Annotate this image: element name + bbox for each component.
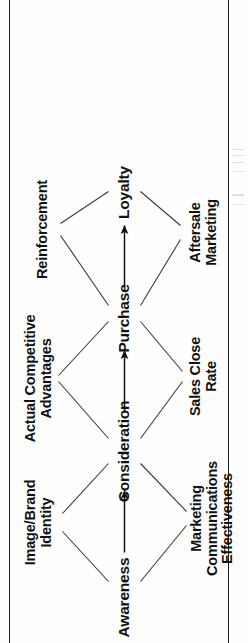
- link-purchase-aftersale: [140, 239, 180, 305]
- diagram-canvas-rotated: Awareness Consideration Purchase Loyalty…: [0, 0, 248, 643]
- driver-node-reinforcement[interactable]: Reinforcement: [34, 180, 50, 279]
- link-consideration-competitive: [58, 381, 108, 438]
- link-consideration-mktcomms: [140, 463, 186, 511]
- driver-node-marketing-communications-effectiveness[interactable]: Marketing Communications Effectiveness: [189, 461, 236, 576]
- link-purchase-competitive: [58, 321, 108, 375]
- link-purchase-reinforcement: [60, 235, 108, 305]
- link-awareness-mktcomms: [140, 525, 186, 581]
- scanned-page: Awareness Consideration Purchase Loyalty…: [0, 0, 248, 643]
- link-loyalty-reinforcement: [60, 191, 108, 223]
- stage-node-loyalty[interactable]: Loyalty: [116, 166, 133, 219]
- stage-node-awareness[interactable]: Awareness: [116, 557, 133, 637]
- link-consideration-image-brand: [62, 463, 108, 513]
- stage-node-purchase[interactable]: Purchase: [116, 284, 133, 352]
- driver-node-image-brand-identity[interactable]: Image/Brand Identity: [22, 479, 53, 565]
- driver-node-actual-competitive-advantages[interactable]: Actual Competitive Advantages: [22, 314, 53, 442]
- link-awareness-image-brand: [62, 531, 108, 581]
- diagram-canvas: Awareness Consideration Purchase Loyalty…: [0, 0, 248, 643]
- link-consideration-salesclose: [140, 381, 182, 438]
- link-purchase-salesclose: [140, 321, 182, 371]
- driver-node-sales-close-rate[interactable]: Sales Close Rate: [187, 336, 218, 415]
- link-loyalty-aftersale: [140, 191, 180, 225]
- driver-node-aftersale-marketing[interactable]: Aftersale Marketing: [187, 199, 218, 266]
- stage-node-consideration[interactable]: Consideration: [116, 400, 133, 502]
